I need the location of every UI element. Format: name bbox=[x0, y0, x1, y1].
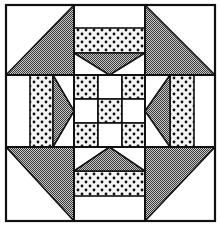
quilt-fills bbox=[6, 5, 215, 221]
ninepatch-cell-2-0 bbox=[74, 123, 98, 147]
ninepatch-cell-0-0 bbox=[74, 75, 98, 99]
ninepatch-cell-1-1 bbox=[98, 99, 122, 123]
quilt-block-svg bbox=[0, 0, 220, 227]
ninepatch-cell-1-0 bbox=[74, 99, 98, 123]
ninepatch-cell-2-1 bbox=[98, 123, 122, 147]
side-dotted-strip-top bbox=[74, 28, 145, 53]
ninepatch-cell-0-2 bbox=[122, 75, 145, 99]
ninepatch-cell-0-1 bbox=[98, 75, 122, 99]
side-dotted-strip-right bbox=[170, 75, 194, 147]
side-dotted-strip-left bbox=[30, 75, 53, 147]
side-dotted-strip-bottom bbox=[74, 171, 145, 196]
ninepatch-cell-1-2 bbox=[122, 99, 145, 123]
quilt-block-figure bbox=[0, 0, 220, 227]
ninepatch-cell-2-2 bbox=[122, 123, 145, 147]
